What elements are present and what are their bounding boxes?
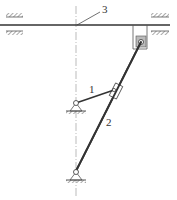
guide-right-bottom xyxy=(151,31,169,35)
link-2-overlay xyxy=(76,42,141,171)
mechanism-diagram: 3 1 2 xyxy=(0,0,177,200)
label-1: 1 xyxy=(89,83,95,95)
guide-left-bottom xyxy=(6,31,23,35)
label-3: 3 xyxy=(102,3,108,15)
label-2: 2 xyxy=(106,116,112,128)
joint-link1-collar xyxy=(112,88,115,91)
guide-left-top xyxy=(6,13,23,17)
guide-right-top xyxy=(151,13,169,17)
fixed-pivot-upper xyxy=(66,101,86,115)
link-1 xyxy=(76,90,114,103)
fixed-pivot-lower xyxy=(66,170,86,184)
label-3-leader xyxy=(77,12,100,25)
